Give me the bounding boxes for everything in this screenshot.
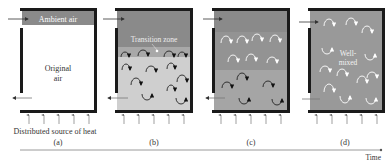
roof-wall [115,8,193,11]
left-wall [20,28,23,93]
right-wall [287,8,290,112]
time-axis-end-icon [380,149,382,151]
ambient-air-layer [214,10,288,32]
lower-layer [214,70,288,110]
panel-c: (c) [203,8,290,147]
heat-source-arrows [221,115,281,124]
left-wall [115,28,118,93]
heat-source-label: Distributed source of heat [14,127,98,136]
left-wall [308,28,311,93]
ambient-air-label: Ambient air [39,15,78,24]
caption-d: (d) [340,138,350,147]
original-air-label-2: air [54,74,63,83]
eddy-dot [156,50,159,53]
heat-source-arrows [29,115,89,124]
right-wall [94,8,97,112]
floor-wall [115,110,193,113]
roof-wall [20,8,97,11]
right-wall [190,8,193,112]
left-wall [212,28,215,93]
right-wall [382,8,385,112]
caption-a: (a) [54,138,63,147]
floor-wall [308,110,385,113]
roof-wall [308,8,385,11]
mixing-layer [214,32,288,70]
transition-zone-label: Transition zone [131,35,178,44]
caption-b: (b) [149,138,159,147]
roof-wall [212,8,290,11]
panel-d: Well- mixed (d) [299,8,385,147]
panel-a: Ambient air Original air Distributed sou… [8,8,97,147]
floor-wall [212,110,290,113]
time-axis-label: Time [365,153,381,162]
heat-source-arrows [317,115,377,124]
well-mixed-label: Well- [340,49,357,58]
panel-b: Transition zone (b) [103,8,193,147]
heat-source-arrows [124,115,184,124]
stratification-diagram: Ambient air Original air Distributed sou… [0,0,392,163]
floor-wall [20,110,97,113]
transition-zone [117,47,191,57]
caption-c: (c) [247,138,256,147]
original-air-label: Original [45,64,72,73]
well-mixed-label-2: mixed [339,58,358,67]
time-axis: Time [20,149,382,162]
